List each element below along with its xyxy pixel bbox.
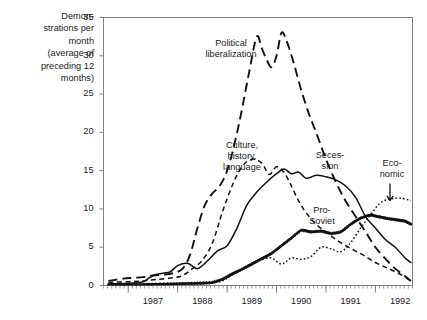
y-tick-label: 5	[72, 241, 94, 251]
y-axis-label-line-5: preceding 12	[2, 60, 94, 72]
x-tick-label: 1989	[232, 296, 272, 306]
y-tick-label: 0	[72, 280, 94, 290]
annotation-line: Pro-	[282, 205, 362, 216]
annotation-line: liberalization	[191, 49, 271, 60]
y-tick-label: 25	[72, 88, 94, 98]
y-axis-label-line-3: month	[2, 35, 94, 47]
x-tick-label: 1991	[331, 296, 371, 306]
x-tick-label: 1988	[182, 296, 222, 306]
annotation-line: Culture,	[202, 140, 282, 151]
series-line-secession	[108, 169, 411, 284]
y-tick-label: 30	[72, 50, 94, 60]
annotation-line: Soviet	[282, 216, 362, 227]
annotation-line: Eco-	[352, 158, 427, 169]
annotation-culture-history-language: Culture,history,language	[202, 140, 282, 174]
x-tick-label: 1992	[380, 296, 420, 306]
annotation-pro-soviet: Pro-Soviet	[282, 205, 362, 227]
annotation-line: language	[202, 162, 282, 173]
annotation-line: history,	[202, 151, 282, 162]
annotation-political-liberalization: Politicalliberalization	[191, 38, 271, 60]
y-tick-label: 15	[72, 165, 94, 175]
chart-figure: Demon- strations per month (average of p…	[0, 0, 427, 320]
annotation-line: nomic	[352, 169, 427, 180]
series-line-pro-soviet	[108, 215, 411, 285]
y-tick-label: 20	[72, 126, 94, 136]
y-tick-label: 10	[72, 203, 94, 213]
annotation-economic: Eco-nomic	[352, 158, 427, 180]
y-axis-label-line-2: strations per	[2, 22, 94, 34]
y-axis-label-line-6: months)	[2, 72, 94, 84]
x-tick-label: 1990	[281, 296, 321, 306]
annotation-line: Political	[191, 38, 271, 49]
y-tick-label: 35	[72, 12, 94, 22]
x-tick-label: 1987	[133, 296, 173, 306]
series-line-economic	[108, 198, 411, 285]
